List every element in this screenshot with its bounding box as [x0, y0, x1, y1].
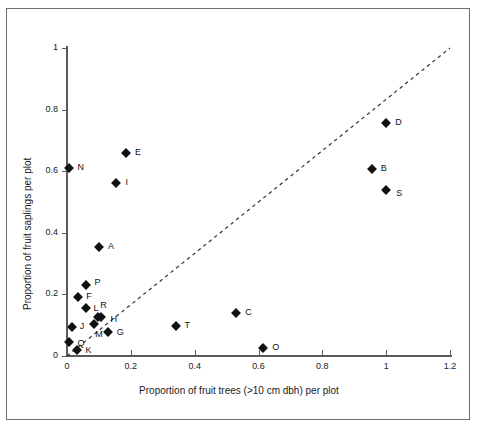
x-tick-label: 0.6: [239, 361, 279, 371]
y-tick-mark: [62, 233, 67, 234]
y-axis-title: Proportion of fruit saplings per plot: [22, 158, 33, 310]
data-point-l: [81, 303, 91, 313]
data-point-label-r: R: [100, 301, 107, 310]
x-axis-line: [66, 355, 452, 357]
x-tick-mark: [386, 350, 387, 355]
data-point-label-i: I: [125, 178, 128, 187]
y-axis-line: [66, 46, 68, 357]
x-tick-mark: [259, 350, 260, 355]
x-tick-mark: [450, 350, 451, 355]
data-point-a: [94, 242, 104, 252]
data-point-t: [171, 321, 181, 331]
data-point-o: [258, 343, 268, 353]
data-point-b: [367, 164, 377, 174]
x-tick-mark: [322, 350, 323, 355]
data-point-f: [73, 293, 83, 303]
x-tick-label: 1.2: [430, 361, 470, 371]
x-tick-mark: [67, 350, 68, 355]
data-point-label-o: O: [272, 343, 279, 352]
data-point-d: [381, 118, 391, 128]
y-tick-label: 0.6: [32, 165, 58, 175]
data-point-label-k: K: [86, 346, 92, 355]
data-point-label-m: M: [95, 330, 103, 339]
scatter-plot: 00.20.40.60.811.2 00.20.40.60.81 ABCDEFG…: [0, 0, 478, 436]
data-point-c: [231, 309, 241, 319]
y-tick-label: 0.4: [32, 227, 58, 237]
y-tick-mark: [62, 48, 67, 49]
x-tick-label: 0: [47, 361, 87, 371]
data-point-label-q: Q: [78, 339, 85, 348]
data-point-label-p: P: [95, 278, 101, 287]
data-point-j: [67, 322, 77, 332]
data-point-label-b: B: [381, 164, 387, 173]
y-tick-mark: [62, 171, 67, 172]
data-point-label-j: J: [80, 322, 85, 331]
y-tick-label: 0.2: [32, 288, 58, 298]
y-tick-mark: [62, 110, 67, 111]
data-point-label-f: F: [86, 292, 92, 301]
data-point-label-g: G: [117, 328, 124, 337]
data-point-e: [121, 148, 131, 158]
x-tick-label: 0.4: [175, 361, 215, 371]
x-tick-label: 1: [366, 361, 406, 371]
data-point-label-s: S: [396, 189, 402, 198]
y-tick-mark: [62, 356, 67, 357]
y-tick-label: 1: [32, 42, 58, 52]
data-point-i: [112, 178, 122, 188]
x-axis-title: Proportion of fruit trees (>10 cm dbh) p…: [0, 385, 478, 396]
data-point-label-e: E: [135, 148, 141, 157]
data-point-label-t: T: [185, 321, 191, 330]
data-point-p: [81, 280, 91, 290]
data-point-label-h: H: [110, 315, 117, 324]
x-tick-label: 0.2: [111, 361, 151, 371]
x-tick-label: 0.8: [302, 361, 342, 371]
data-point-label-d: D: [395, 118, 402, 127]
y-tick-label: 0: [32, 350, 58, 360]
x-tick-mark: [131, 350, 132, 355]
data-point-label-c: C: [245, 308, 252, 317]
data-point-label-n: N: [78, 163, 85, 172]
data-point-g: [103, 327, 113, 337]
data-point-label-a: A: [108, 242, 114, 251]
y-tick-label: 0.8: [32, 104, 58, 114]
x-tick-mark: [195, 350, 196, 355]
y-tick-mark: [62, 294, 67, 295]
data-point-s: [381, 185, 391, 195]
